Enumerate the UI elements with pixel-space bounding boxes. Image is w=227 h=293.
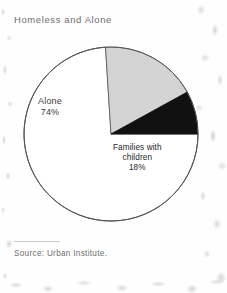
pie-label-families-name-2: children: [113, 153, 162, 163]
pie-label-families-value: 18%: [113, 163, 162, 173]
pie-label-alone: Alone 74%: [38, 96, 62, 118]
chart-title: Homeless and Alone: [14, 14, 112, 25]
source-note: Source: Urban Institute.: [14, 249, 107, 258]
pie-label-families-name-1: Families with: [113, 143, 162, 152]
page-canvas: Homeless and Alone Alone 74% Families wi…: [0, 0, 227, 293]
pie-label-childless-name-2: groups: [84, 200, 118, 210]
pie-label-childless-name-1: Childless: [84, 190, 118, 199]
pie-label-childless-value: 8%: [84, 210, 118, 220]
page-edge-texture-left: [0, 0, 14, 293]
pie-label-alone-name: Alone: [38, 96, 62, 106]
pie-label-families: Families with children 18%: [113, 143, 162, 173]
pie-label-childless: Childless groups 8%: [84, 190, 118, 220]
source-divider: [14, 241, 60, 242]
page-edge-texture-bottom: [0, 269, 227, 293]
pie-label-alone-value: 74%: [38, 107, 62, 118]
